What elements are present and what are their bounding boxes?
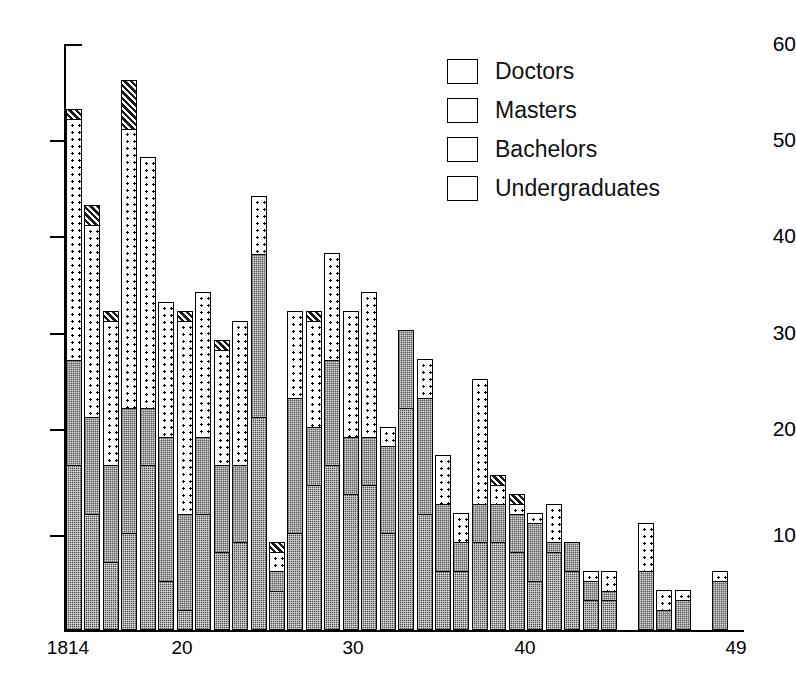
bar-segment-bachelors [527,523,543,582]
legend-swatch-undergraduates-icon [447,176,478,201]
bar-year-1823 [232,322,248,630]
bar-year-1815 [84,207,100,630]
legend-label-doctors: Doctors [495,60,574,83]
bar-year-1814 [66,111,82,630]
bar-segment-bachelors [306,427,322,486]
bar-segment-undergraduates [435,571,451,630]
bar-segment-masters [214,350,230,467]
bar-segment-bachelors [435,504,451,573]
bar-segment-undergraduates [380,532,396,630]
bar-year-1832 [398,332,414,630]
bar-segment-bachelors [84,417,100,515]
bar-segment-doctors [214,340,230,351]
bar-segment-bachelors [546,542,562,553]
bar-segment-bachelors [324,359,340,466]
bar-year-1831 [380,428,396,630]
bar-segment-masters [453,513,469,543]
bar-year-1839 [527,515,543,630]
bar-segment-masters [121,128,137,408]
bar-year-1837 [490,476,506,630]
bar-segment-doctors [84,205,100,226]
stacked-bar-chart: 60 50 40 30 20 10 1814 20 30 40 49 Docto… [0,0,796,684]
bar-segment-bachelors [214,465,230,553]
bar-segment-doctors [509,494,525,505]
bar-segment-masters [140,157,156,409]
bar-segment-undergraduates [398,407,414,630]
bar-segment-bachelors [232,465,248,543]
legend-item-doctors: Doctors [447,52,660,91]
bar-year-1825 [269,543,285,630]
bar-segment-masters [417,359,433,399]
bar-segment-bachelors [66,359,82,466]
bar-segment-bachelors [269,571,285,592]
bar-year-1846 [656,592,672,630]
bar-year-1843 [601,572,617,630]
bar-segment-bachelors [398,330,414,408]
bar-segment-undergraduates [84,513,100,630]
bar-segment-masters [232,321,248,467]
bar-segment-masters [601,571,617,592]
legend-swatch-masters-icon [447,98,478,123]
bar-segment-doctors [177,311,193,322]
bar-segment-bachelors [509,513,525,553]
bar-segment-bachelors [177,513,193,611]
bar-segment-masters [84,225,100,419]
bar-year-1824 [251,197,267,630]
bar-segment-bachelors [490,504,506,544]
bar-segment-undergraduates [601,600,617,630]
bar-segment-undergraduates [103,561,119,630]
bars-container [0,0,796,684]
bar-year-1828 [324,255,340,630]
bar-segment-bachelors [453,542,469,572]
bar-segment-bachelors [675,600,691,630]
legend-item-bachelors: Bachelors [447,130,660,169]
bar-segment-bachelors [251,253,267,418]
legend-swatch-bachelors-icon [447,137,478,162]
bar-segment-masters [177,321,193,515]
bar-year-1829 [343,313,359,630]
bar-segment-masters [546,504,562,544]
bar-segment-bachelors [103,465,119,563]
bar-segment-masters [583,571,599,582]
legend-item-undergraduates: Undergraduates [447,169,660,208]
bar-segment-bachelors [583,581,599,602]
bar-segment-bachelors [287,398,303,534]
bar-segment-undergraduates [564,571,580,630]
bar-segment-masters [380,427,396,448]
bar-segment-undergraduates [306,484,322,630]
bar-year-1834 [435,457,451,630]
bar-segment-masters [251,196,267,255]
bar-segment-undergraduates [121,532,137,630]
bar-segment-bachelors [656,609,672,630]
bar-segment-undergraduates [527,581,543,631]
bar-segment-masters [712,571,728,582]
bar-year-1842 [583,572,599,630]
bar-segment-bachelors [564,542,580,572]
plot-area: 60 50 40 30 20 10 1814 20 30 40 49 [0,0,796,684]
bar-segment-undergraduates [490,542,506,630]
bar-segment-bachelors [712,581,728,631]
bar-segment-bachelors [195,436,211,514]
bar-segment-masters [158,302,174,438]
bar-segment-undergraduates [66,465,82,630]
bar-segment-bachelors [472,504,488,544]
bar-segment-undergraduates [546,552,562,630]
bar-segment-masters [472,379,488,505]
bar-segment-masters [675,590,691,601]
bar-segment-undergraduates [140,465,156,630]
bar-segment-undergraduates [177,609,193,630]
bar-year-1830 [361,293,377,630]
bar-segment-undergraduates [195,513,211,630]
legend-label-undergraduates: Undergraduates [495,177,660,200]
bar-segment-masters [490,484,506,505]
bar-segment-masters [435,455,451,505]
bar-segment-bachelors [121,407,137,533]
bar-year-1821 [195,293,211,630]
bar-segment-undergraduates [583,600,599,630]
bar-segment-undergraduates [251,417,267,630]
bar-segment-bachelors [158,436,174,582]
legend-label-masters: Masters [495,99,577,122]
bar-year-1820 [177,313,193,630]
bar-segment-bachelors [638,571,654,630]
bar-segment-masters [361,292,377,438]
